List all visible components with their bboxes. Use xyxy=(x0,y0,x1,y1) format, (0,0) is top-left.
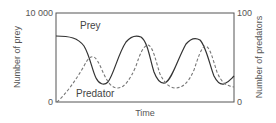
y-right-tick-min: 0 xyxy=(237,97,242,107)
prey-series-label: Prey xyxy=(80,20,101,31)
predator-series-label: Predator xyxy=(76,88,115,99)
x-axis-label: Time xyxy=(135,108,155,118)
y-left-axis-label: Number of prey xyxy=(12,25,22,88)
y-left-tick-min: 0 xyxy=(48,97,53,107)
y-left-tick-max: 10 000 xyxy=(25,8,53,18)
y-right-axis-label: Number of predators xyxy=(254,15,264,98)
y-right-tick-max: 100 xyxy=(237,8,252,18)
prey-line xyxy=(56,36,234,84)
predator-prey-chart: 10 000 0 100 0 Number of prey Number of … xyxy=(0,0,276,123)
